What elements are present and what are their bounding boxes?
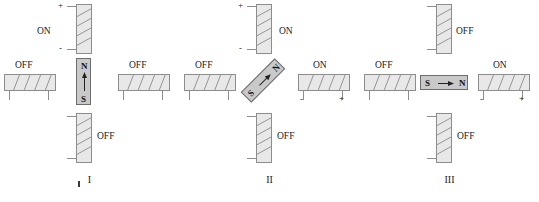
coil-label-top-III: OFF bbox=[456, 27, 473, 37]
terminal-plus-right-II: + bbox=[339, 94, 344, 103]
coil-lead bbox=[9, 91, 10, 100]
coil-bottom-I bbox=[76, 113, 92, 163]
bar-magnet-I: N S bbox=[76, 58, 91, 105]
coil-lead bbox=[483, 91, 484, 100]
coil-top-II bbox=[256, 4, 272, 54]
coil-lead bbox=[427, 49, 436, 50]
coil-right-I bbox=[118, 74, 170, 91]
coil-label-bottom-II: OFF bbox=[277, 132, 294, 142]
coil-lead bbox=[48, 91, 49, 100]
coil-lead bbox=[427, 6, 436, 7]
coil-body bbox=[256, 113, 272, 163]
panel-caption-I: I bbox=[0, 175, 179, 185]
bar-magnet-II: S N bbox=[241, 58, 286, 103]
coil-right-II bbox=[298, 74, 350, 91]
coil-body bbox=[76, 4, 92, 54]
coil-lead bbox=[247, 49, 256, 50]
coil-body bbox=[364, 74, 416, 91]
coil-lead bbox=[247, 158, 256, 159]
terminal-plus-right-III: + bbox=[519, 94, 524, 103]
coil-lead bbox=[369, 91, 370, 100]
coil-body bbox=[256, 4, 272, 54]
coil-left-III bbox=[364, 74, 416, 91]
coil-label-bottom-III: OFF bbox=[457, 132, 474, 142]
coil-label-left-II: OFF bbox=[195, 61, 212, 71]
coil-label-left-I: OFF bbox=[15, 61, 32, 71]
coil-lead bbox=[67, 158, 76, 159]
coil-top-III bbox=[436, 4, 452, 54]
panel-caption-II: II bbox=[180, 175, 359, 185]
coil-body bbox=[436, 113, 452, 163]
coil-lead bbox=[427, 158, 436, 159]
coil-body bbox=[76, 113, 92, 163]
terminal-plus-top-I: + bbox=[58, 1, 63, 10]
terminal-minus-top-II: - bbox=[239, 44, 242, 53]
terminal-minus-right-III: - bbox=[480, 95, 483, 104]
scan-artifact bbox=[78, 181, 80, 187]
panel-I: + - ON OFF OFF bbox=[0, 0, 179, 202]
coil-lead bbox=[247, 6, 256, 7]
coil-body bbox=[478, 74, 530, 91]
coil-label-right-III: ON bbox=[493, 61, 507, 71]
coil-lead bbox=[67, 116, 76, 117]
coil-lead bbox=[247, 116, 256, 117]
coil-lead bbox=[67, 49, 76, 50]
coil-label-right-II: ON bbox=[313, 61, 327, 71]
coil-body bbox=[184, 74, 236, 91]
coil-lead bbox=[228, 91, 229, 100]
coil-lead bbox=[67, 6, 76, 7]
coil-body bbox=[4, 74, 56, 91]
terminal-minus-top-I: - bbox=[59, 44, 62, 53]
coil-body bbox=[118, 74, 170, 91]
coil-label-right-I: OFF bbox=[129, 61, 146, 71]
coil-left-II bbox=[184, 74, 236, 91]
coil-label-left-III: OFF bbox=[375, 61, 392, 71]
coil-body bbox=[298, 74, 350, 91]
terminal-plus-top-II: + bbox=[238, 1, 243, 10]
coil-bottom-II bbox=[256, 113, 272, 163]
coil-top-I bbox=[76, 4, 92, 54]
terminal-minus-right-II: - bbox=[300, 95, 303, 104]
panel-III: OFF OFF ON - + bbox=[360, 0, 539, 202]
magnet-arrow-up-icon bbox=[77, 59, 92, 106]
coil-lead bbox=[408, 91, 409, 100]
coil-right-III bbox=[478, 74, 530, 91]
coil-left-I bbox=[4, 74, 56, 91]
bar-magnet-III: S N bbox=[420, 75, 468, 90]
coil-body bbox=[436, 4, 452, 54]
magnet-arrow-right-icon bbox=[421, 76, 469, 91]
coil-lead bbox=[162, 91, 163, 100]
coil-lead bbox=[303, 91, 304, 100]
coil-lead bbox=[427, 116, 436, 117]
magnet-arrow-right-icon bbox=[242, 58, 287, 103]
coil-label-top-II: ON bbox=[279, 27, 293, 37]
magnet-coil-figure: + - ON OFF OFF bbox=[0, 0, 539, 202]
coil-lead bbox=[123, 91, 124, 100]
panel-caption-III: III bbox=[360, 175, 539, 185]
panel-II: + - ON OFF ON - + bbox=[180, 0, 359, 202]
coil-label-bottom-I: OFF bbox=[97, 132, 114, 142]
coil-label-top-I: ON bbox=[37, 27, 51, 37]
coil-bottom-III bbox=[436, 113, 452, 163]
coil-lead bbox=[189, 91, 190, 100]
